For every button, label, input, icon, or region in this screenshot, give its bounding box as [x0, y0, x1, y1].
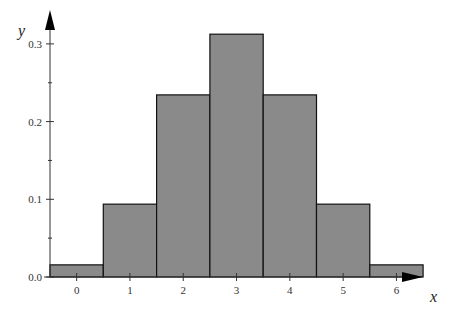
y-tick-label: 0.0 [28, 271, 42, 283]
x-axis-label: x [429, 288, 437, 305]
x-tick-label: 2 [181, 284, 187, 296]
bar-5 [317, 204, 370, 277]
bar-4 [263, 95, 316, 277]
y-tick-label: 0.2 [28, 116, 42, 128]
y-axis-label: y [16, 22, 26, 40]
bar-3 [210, 34, 263, 277]
x-tick-label: 1 [127, 284, 133, 296]
x-tick-label: 4 [287, 284, 293, 296]
histogram-chart: x y 0.00.10.20.3 0123456 [0, 0, 466, 320]
y-tick-label: 0.3 [28, 38, 42, 50]
x-tick-label: 0 [74, 284, 80, 296]
x-tick-label: 5 [340, 284, 346, 296]
x-tick-label: 6 [394, 284, 400, 296]
bar-2 [157, 95, 210, 277]
y-tick-label: 0.1 [28, 193, 42, 205]
y-axis-arrow [45, 10, 55, 30]
x-tick-label: 3 [234, 284, 240, 296]
bar-1 [103, 204, 156, 277]
